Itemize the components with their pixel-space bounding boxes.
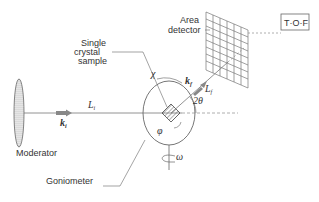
moderator xyxy=(14,79,24,147)
L-incident-symbol: Li xyxy=(87,99,96,111)
detector-label-line1: Area xyxy=(180,15,199,25)
L-final-symbol: Lf xyxy=(204,83,214,95)
chi-symbol: χ xyxy=(150,68,156,79)
omega-symbol: ω xyxy=(176,151,183,162)
sample-leader xyxy=(112,52,167,107)
k-final-symbol: kf xyxy=(185,75,193,87)
phi-arc xyxy=(174,122,181,128)
moderator-label: Moderator xyxy=(16,148,57,158)
k-incident-symbol: ki xyxy=(60,117,67,129)
tof-label: T·O·F xyxy=(284,18,308,28)
diffraction-diagram: Moderator Goniometer Single crystal samp… xyxy=(0,0,319,202)
incident-k-arrow xyxy=(56,110,72,117)
phi-symbol: φ xyxy=(157,125,163,136)
area-detector xyxy=(206,12,248,88)
sample-label-line3: sample xyxy=(78,56,107,66)
detector-label-line2: detector xyxy=(168,25,201,35)
two-theta-symbol: 2θ xyxy=(193,95,203,106)
goniometer-label: Goniometer xyxy=(46,176,93,186)
goniometer-leader xyxy=(103,140,145,186)
